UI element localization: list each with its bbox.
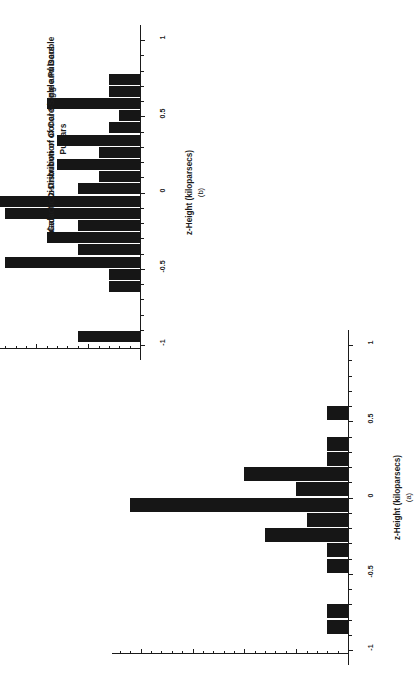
category-tick-a-0.7 — [349, 391, 351, 392]
value-tick-a-5 — [296, 649, 297, 653]
panel-caption-a: (a) — [404, 486, 413, 508]
value-tick-a-8 — [265, 651, 266, 653]
bar — [327, 452, 348, 466]
tick-label-b-0: 0 — [159, 179, 166, 201]
value-tick-b-2 — [119, 346, 120, 348]
category-tick-a--0.8 — [349, 620, 351, 621]
value-tick-a-9 — [255, 651, 256, 653]
category-tick-a-0 — [349, 498, 353, 499]
value-tick-a-14 — [203, 651, 204, 653]
category-tick-b-0.3 — [141, 147, 143, 148]
category-tick-a-0.6 — [349, 406, 351, 407]
value-tick-a-6 — [286, 651, 287, 653]
bar — [119, 110, 140, 121]
tick-label-a-1: 1 — [367, 332, 374, 354]
value-tick-a-11 — [234, 651, 235, 653]
value-axis-ruler-a — [112, 653, 348, 654]
value-tick-b-10 — [36, 344, 37, 348]
category-tick-b--0.6 — [141, 284, 143, 285]
bar — [307, 513, 348, 527]
value-tick-a-20 — [141, 649, 142, 653]
plot-area-a: -1-0.500.51z-Height (kiloparsecs)(a) — [208, 0, 416, 683]
category-tick-a--0.5 — [349, 574, 353, 575]
category-tick-b--0.3 — [141, 238, 143, 239]
value-tick-a-19 — [151, 651, 152, 653]
category-tick-b--0.8 — [141, 315, 143, 316]
bar — [327, 406, 348, 420]
value-axis-ruler-b — [0, 348, 140, 349]
bar — [78, 331, 140, 342]
bar — [109, 281, 140, 292]
value-tick-a-21 — [130, 651, 131, 653]
value-tick-a-4 — [307, 651, 308, 653]
category-tick-b--0.1 — [141, 208, 143, 209]
category-tick-a-0.8 — [349, 376, 351, 377]
category-tick-b--0.5 — [141, 269, 145, 270]
value-tick-b-3 — [109, 346, 110, 348]
value-tick-a-12 — [224, 651, 225, 653]
category-tick-b--0.7 — [141, 299, 143, 300]
category-tick-a-0.1 — [349, 482, 351, 483]
value-tick-a-10 — [244, 649, 245, 653]
category-tick-b-0.4 — [141, 132, 143, 133]
category-tick-b-0.5 — [141, 116, 145, 117]
category-tick-b-0.6 — [141, 101, 143, 102]
axis-title-a: z-Height (kiloparsecs) — [393, 450, 402, 544]
category-tick-b-0.1 — [141, 177, 143, 178]
value-tick-b-11 — [26, 346, 27, 348]
value-tick-b-1 — [130, 346, 131, 348]
bar — [265, 528, 348, 542]
category-tick-a--0.6 — [349, 589, 351, 590]
value-tick-a-17 — [172, 651, 173, 653]
category-tick-a--0.9 — [349, 635, 351, 636]
panel-conal-single-double: Galactic z-Distribution of Conal Single … — [0, 0, 208, 683]
category-tick-b-0.7 — [141, 86, 143, 87]
value-tick-a-3 — [317, 651, 318, 653]
value-tick-a-16 — [182, 651, 183, 653]
axis-title-b: z-Height (kiloparsecs) — [185, 145, 194, 239]
value-tick-b-5 — [88, 344, 89, 348]
value-tick-b-9 — [47, 346, 48, 348]
bar — [244, 467, 348, 481]
bar — [109, 86, 140, 97]
value-tick-a-2 — [327, 651, 328, 653]
panel-core-single: Galactic z-Distribution of Core-SIngle P… — [208, 0, 416, 683]
category-tick-a--1 — [349, 650, 353, 651]
bar — [327, 437, 348, 451]
panel-a-title: Galactic z-Distribution of Core-SIngle P… — [46, 26, 58, 252]
category-tick-b--1 — [141, 345, 145, 346]
category-tick-b-0.9 — [141, 55, 143, 56]
value-tick-b-8 — [57, 346, 58, 348]
tick-label-b--0.5: -0.5 — [159, 255, 166, 277]
category-tick-a-0.9 — [349, 360, 351, 361]
bar — [78, 220, 140, 231]
category-tick-a--0.3 — [349, 543, 351, 544]
bar — [5, 257, 140, 268]
bar — [109, 122, 140, 133]
tick-label-a-0.5: 0.5 — [367, 408, 374, 430]
value-tick-b-13 — [5, 346, 6, 348]
value-tick-a-1 — [338, 651, 339, 653]
plot-area-b: -1-0.500.51z-Height (kiloparsecs)(b) — [0, 0, 208, 683]
bar — [109, 74, 140, 85]
bar — [327, 620, 348, 634]
value-tick-a-15 — [193, 649, 194, 653]
bar — [78, 183, 140, 194]
bar — [47, 98, 140, 109]
category-tick-a-0.4 — [349, 437, 351, 438]
category-tick-b--0.9 — [141, 330, 143, 331]
value-tick-b-6 — [78, 346, 79, 348]
bar — [57, 159, 140, 170]
bar — [327, 604, 348, 618]
category-tick-a--0.4 — [349, 559, 351, 560]
bar — [130, 498, 348, 512]
value-tick-b-4 — [99, 346, 100, 348]
bar — [327, 559, 348, 573]
bar — [327, 543, 348, 557]
category-tick-a-1 — [349, 345, 353, 346]
bar — [99, 171, 140, 182]
category-tick-a--0.7 — [349, 604, 351, 605]
category-tick-b-1 — [141, 40, 145, 41]
category-tick-b--0.4 — [141, 254, 143, 255]
category-tick-b--0.2 — [141, 223, 143, 224]
